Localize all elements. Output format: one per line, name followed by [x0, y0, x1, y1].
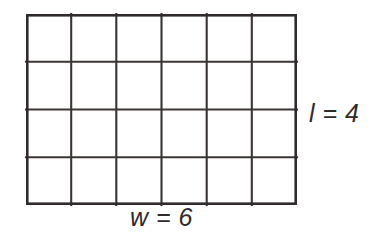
- width-label: w = 6: [26, 205, 297, 230]
- diagram-canvas: l = 4 w = 6: [0, 0, 391, 234]
- length-label: l = 4: [309, 101, 359, 126]
- grid-svg: [26, 14, 297, 205]
- rectangle-grid-figure: [26, 14, 297, 205]
